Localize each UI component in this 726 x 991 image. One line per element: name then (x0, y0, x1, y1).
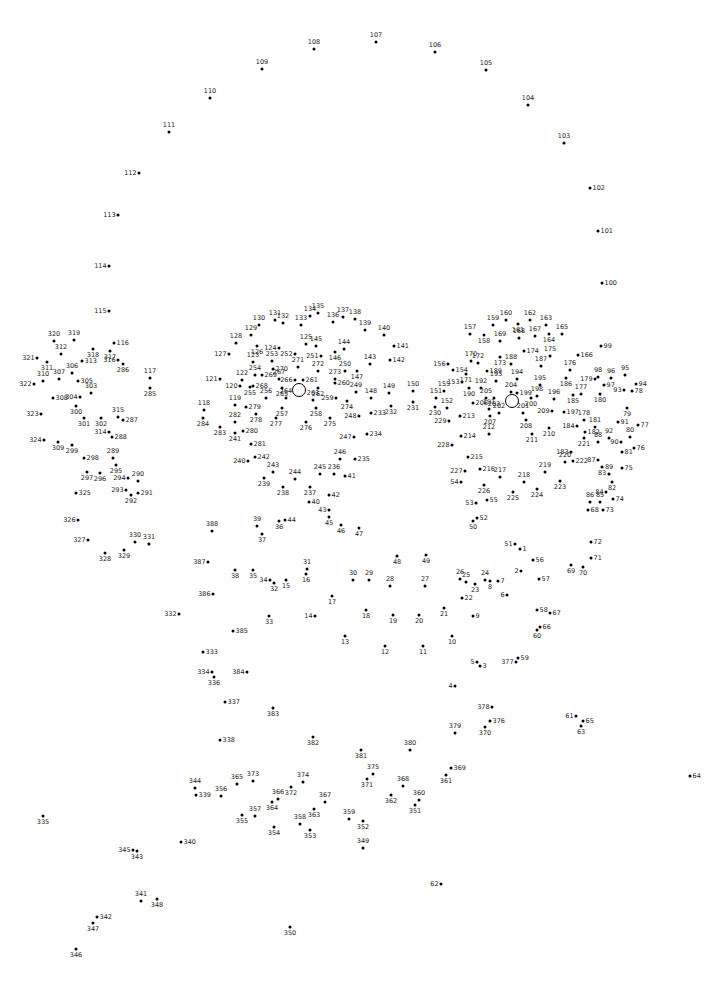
puzzle-dot (354, 458, 357, 461)
dot-number-label: 387 (193, 559, 205, 566)
puzzle-dot (52, 397, 55, 400)
puzzle-dot (540, 365, 543, 368)
dot-number-label: 288 (115, 434, 127, 441)
dot-number-label: 46 (337, 528, 345, 535)
dot-number-label: 115 (94, 308, 106, 315)
dot-number-label: 337 (228, 699, 240, 706)
dot-number-label: 208 (520, 423, 532, 430)
puzzle-dot (265, 397, 268, 400)
dot-number-label: 248 (344, 413, 356, 420)
dot-number-label: 344 (189, 778, 201, 785)
puzzle-dot (317, 312, 320, 315)
dot-number-label: 342 (100, 914, 112, 921)
dot-number-label: 2 (514, 568, 518, 575)
puzzle-dot (60, 353, 63, 356)
dot-number-label: 252 (280, 351, 292, 358)
puzzle-dot (495, 380, 498, 383)
dot-number-label: 333 (206, 649, 218, 656)
puzzle-dot (254, 456, 257, 459)
dot-number-label: 73 (606, 507, 614, 514)
dot-number-label: 327 (73, 537, 85, 544)
puzzle-dot (621, 451, 624, 454)
puzzle-dot (314, 615, 317, 618)
puzzle-dot (368, 579, 371, 582)
dot-number-label: 280 (246, 428, 258, 435)
dot-number-label: 181 (589, 417, 601, 424)
dot-number-label: 143 (364, 354, 376, 361)
dot-number-label: 228 (437, 442, 449, 449)
dot-number-label: 311 (41, 365, 53, 372)
dot-number-label: 190 (463, 391, 475, 398)
puzzle-dot (77, 380, 80, 383)
dot-number-label: 369 (454, 765, 466, 772)
dot-number-label: 346 (70, 952, 82, 959)
puzzle-dot (624, 374, 627, 377)
dot-number-label: 10 (448, 639, 456, 646)
dot-number-label: 114 (94, 263, 106, 270)
dot-number-label: 107 (370, 32, 382, 39)
dot-number-label: 260 (338, 380, 350, 387)
dot-number-label: 193 (490, 371, 502, 378)
dot-number-label: 388 (206, 521, 218, 528)
dot-number-label: 126 (251, 349, 263, 356)
puzzle-dot (563, 411, 566, 414)
dot-number-label: 286 (117, 367, 129, 374)
puzzle-dot (549, 355, 552, 358)
puzzle-dot (497, 580, 500, 583)
puzzle-dot (491, 706, 494, 709)
dot-number-label: 379 (449, 723, 461, 730)
puzzle-dot (446, 407, 449, 410)
puzzle-dot (53, 340, 56, 343)
puzzle-dot (522, 412, 525, 415)
puzzle-dot (83, 457, 86, 460)
dot-number-label: 182 (588, 429, 600, 436)
dot-number-label: 159 (487, 315, 499, 322)
dot-number-label: 274 (341, 404, 353, 411)
puzzle-dot (261, 68, 264, 71)
dot-number-label: 356 (215, 786, 227, 793)
puzzle-dot (178, 613, 181, 616)
puzzle-dot (484, 579, 487, 582)
dot-number-label: 68 (591, 507, 599, 514)
dot-number-label: 359 (343, 809, 355, 816)
dot-number-label: 340 (184, 839, 196, 846)
dot-number-label: 8 (488, 584, 492, 591)
dot-number-label: 192 (475, 378, 487, 385)
dot-number-label: 360 (413, 790, 425, 797)
dot-number-label: 118 (198, 400, 210, 407)
puzzle-dot (569, 369, 572, 372)
puzzle-dot (40, 413, 43, 416)
dot-number-label: 345 (118, 847, 130, 854)
dot-number-label: 299 (66, 448, 78, 455)
dot-number-label: 282 (229, 412, 241, 419)
puzzle-dot (375, 41, 378, 44)
puzzle-dot (254, 815, 257, 818)
puzzle-dot (610, 377, 613, 380)
dot-number-label: 119 (229, 395, 241, 402)
dot-number-label: 283 (214, 430, 226, 437)
puzzle-dot (564, 461, 567, 464)
dot-number-label: 36 (275, 524, 283, 531)
dot-number-label: 245 (314, 464, 326, 471)
puzzle-dot (246, 671, 249, 674)
dot-number-label: 99 (604, 343, 612, 350)
puzzle-dot (498, 412, 501, 415)
dot-number-label: 100 (605, 280, 617, 287)
dot-number-label: 35 (249, 573, 257, 580)
dot-number-label: 241 (229, 436, 241, 443)
dot-number-label: 366 (272, 789, 284, 796)
puzzle-dot (499, 476, 502, 479)
puzzle-dot (584, 431, 587, 434)
dot-number-label: 270 (276, 366, 288, 373)
dot-number-label: 98 (594, 367, 602, 374)
dot-number-label: 76 (637, 445, 645, 452)
dot-number-label: 287 (126, 417, 138, 424)
dot-number-label: 55 (490, 497, 498, 504)
dot-number-label: 365 (231, 774, 243, 781)
puzzle-dot (488, 433, 491, 436)
puzzle-dot (620, 441, 623, 444)
dot-number-label: 244 (289, 469, 301, 476)
dot-number-label: 101 (601, 228, 613, 235)
puzzle-dot (476, 661, 479, 664)
dot-number-label: 14 (304, 613, 312, 620)
